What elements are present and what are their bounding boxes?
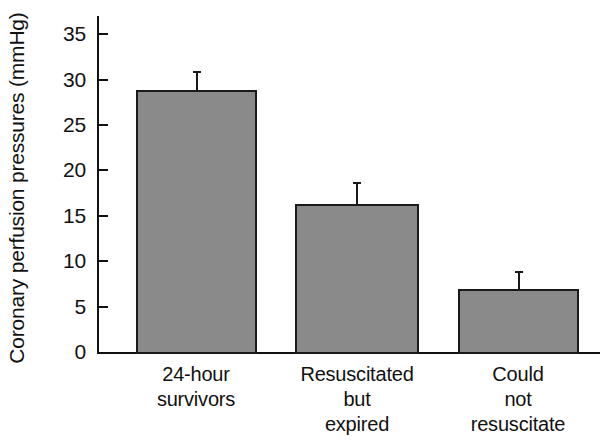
error-bar-stem <box>356 182 358 204</box>
x-axis-category-label-line: survivors <box>106 387 286 412</box>
y-tick-mark <box>99 306 108 308</box>
y-tick-label: 25 <box>42 114 86 135</box>
y-tick-label: 10 <box>42 250 86 271</box>
y-tick-label: 5 <box>42 296 86 317</box>
bar <box>295 204 419 354</box>
x-axis-category-label: Couldnotresuscitate <box>428 362 607 437</box>
y-tick-mark <box>99 215 108 217</box>
x-axis-category-label: 24-hoursurvivors <box>106 362 286 412</box>
error-bar-stem <box>196 71 198 89</box>
x-axis-category-label-line: resuscitate <box>428 412 607 437</box>
x-axis-category-label-line: not <box>428 387 607 412</box>
x-axis-category-label-line: 24-hour <box>106 362 286 387</box>
x-axis-category-label-line: Resuscitated <box>267 362 447 387</box>
error-bar-cap <box>193 71 201 73</box>
y-tick-mark <box>99 33 108 35</box>
x-axis-category-label: Resuscitatedbutexpired <box>267 362 447 437</box>
error-bar-stem <box>518 271 520 289</box>
y-axis-line <box>97 16 99 354</box>
error-bar-cap <box>515 271 523 273</box>
error-bar-cap <box>353 182 361 184</box>
y-tick-label: 15 <box>42 205 86 226</box>
y-tick-mark <box>99 260 108 262</box>
y-axis-title: Coronary perfusion pressures (mmHg) <box>2 8 32 368</box>
y-tick-label: 30 <box>42 69 86 90</box>
y-tick-mark <box>99 169 108 171</box>
x-axis-category-label-line: Could <box>428 362 607 387</box>
y-tick-label: 20 <box>42 159 86 180</box>
bar-chart-figure: Coronary perfusion pressures (mmHg) 0510… <box>0 0 607 440</box>
y-tick-mark <box>99 79 108 81</box>
bar <box>136 90 257 354</box>
x-axis-category-label-line: expired <box>267 412 447 437</box>
y-tick-mark <box>99 124 108 126</box>
bar <box>458 289 579 354</box>
x-axis-category-label-line: but <box>267 387 447 412</box>
y-tick-label: 35 <box>42 23 86 44</box>
y-tick-label: 0 <box>42 341 86 362</box>
